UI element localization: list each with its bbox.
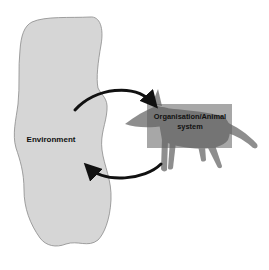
environment-blob [14,17,111,246]
organisation-label-line2: system [147,122,233,132]
environment-label: Environment [22,135,80,145]
organisation-label: Organisation/Animal system [147,112,233,132]
organisation-label-line1: Organisation/Animal [147,112,233,122]
